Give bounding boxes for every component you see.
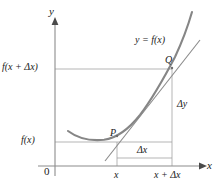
delta-x-label: Δx [137, 145, 147, 155]
curve-equation-label: y = f(x) [135, 35, 165, 45]
x-axis-label: x [207, 160, 212, 171]
x-axis-arrowhead [199, 163, 207, 170]
function-curve [68, 12, 192, 140]
secant-line-figure: y x 0 f(x + Δx) f(x) x x + Δx y = f(x) P… [0, 0, 214, 192]
construction-lines [55, 69, 172, 166]
point-q-marker [171, 67, 173, 69]
delta-y-label: Δy [177, 99, 187, 109]
y-value-label-lower: f(x) [21, 135, 35, 145]
point-p-label: P [110, 128, 116, 138]
figure-canvas [0, 0, 214, 192]
y-axis-arrowhead [52, 17, 59, 25]
y-value-label-upper: f(x + Δx) [2, 62, 38, 72]
x-tick-label-x: x [114, 170, 118, 180]
point-p-marker [116, 135, 118, 137]
origin-label: 0 [44, 166, 50, 177]
y-axis-label: y [49, 6, 54, 17]
point-q-label: Q [165, 55, 172, 65]
x-tick-label-x-plus-dx: x + Δx [154, 170, 181, 180]
